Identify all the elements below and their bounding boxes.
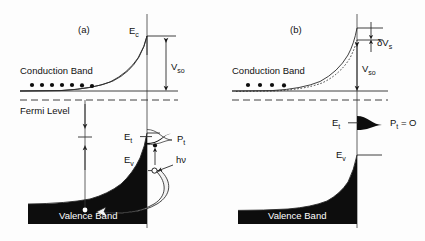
panel-a-conduction-band-curve-2 (20, 36, 147, 91)
panel-a-conduction-band-label: Conduction Band (20, 65, 93, 76)
panel-a-hole-open-circle (152, 168, 157, 173)
panel-a-vso-label: Vso (171, 61, 185, 74)
panel-b-delta-vs-label: δVs (377, 37, 393, 50)
panel-a-tag: (a) (78, 24, 90, 35)
panel-a-trapped-electron-dot (153, 143, 157, 147)
panel-a-valence-band-label: Valence Band (59, 210, 117, 221)
panel-b-tag: (b) (290, 24, 302, 35)
panel-a-electron-dots (30, 83, 94, 88)
panel-b-et-label: Et (332, 117, 340, 130)
panel-a-pt-label: Pt (177, 133, 185, 146)
panel-b-vso-label: Vso (362, 63, 376, 76)
band-diagram-figure: (a) Conduction Band Fermi Level Ec Vso E… (0, 0, 425, 241)
panel-a-hv-pointer-arrow (160, 165, 173, 170)
panel-b-ev-label: Ev (336, 149, 346, 162)
panel-b-conduction-band-label: Conduction Band (232, 65, 305, 76)
panel-a-et-label: Et (124, 131, 132, 144)
panel-a: (a) Conduction Band Fermi Level Ec Vso E… (20, 14, 186, 228)
panel-b-conduction-band-curve-solid (232, 28, 357, 91)
panel-a-hv-label: hν (176, 154, 186, 165)
panel-a-ev-label: Ev (124, 154, 134, 167)
panel-b-pt-zero-label: Pt = O (390, 117, 417, 130)
panel-b-valence-band-label: Valence Band (268, 210, 326, 221)
panel-b-trap-state-lobe (357, 116, 382, 130)
panel-b-electron-dots (246, 83, 286, 88)
panel-a-ec-label: Ec (129, 25, 139, 38)
panel-a-conduction-band-curve (20, 36, 147, 91)
panel-a-fermi-level-label: Fermi Level (20, 105, 70, 116)
diagram-canvas: (a) Conduction Band Fermi Level Ec Vso E… (0, 0, 425, 241)
panel-b: (b) Conduction Band δVs Vso Et Pt = O Ev… (232, 14, 417, 228)
